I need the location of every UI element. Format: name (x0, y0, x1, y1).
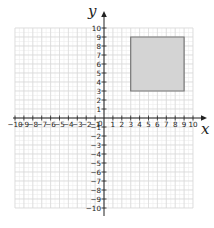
x-tick-label: 2 (120, 120, 125, 129)
y-tick-label: 8 (96, 42, 101, 51)
y-tick-label: 2 (96, 96, 101, 105)
origin-label: 0 (98, 119, 103, 128)
x-tick-label: 10 (188, 120, 198, 129)
x-tick-label: 6 (155, 120, 160, 129)
y-tick-label: −6 (90, 168, 101, 177)
y-tick-label: −4 (90, 150, 101, 159)
y-tick-label: 7 (96, 51, 101, 60)
y-tick-label: 10 (92, 24, 102, 33)
y-tick-label: −5 (90, 159, 101, 168)
shapes-layer (131, 37, 184, 91)
x-tick-label: 4 (137, 120, 142, 129)
y-tick-label: 4 (96, 78, 101, 87)
rectangle-shape (131, 37, 184, 91)
y-tick-label: −9 (90, 195, 101, 204)
y-tick-label: −3 (90, 141, 101, 150)
x-axis-label: x (201, 120, 210, 138)
x-tick-label: 5 (146, 120, 151, 129)
x-tick-label: 3 (128, 120, 133, 129)
coordinate-plane: −10−9−8−7−6−5−4−3−2−11234567891010987654… (0, 0, 214, 228)
y-tick-label: 1 (96, 105, 101, 114)
y-tick-label: 9 (96, 33, 101, 42)
x-tick-label: 1 (111, 120, 116, 129)
x-tick-label: 8 (173, 120, 178, 129)
y-tick-label: −8 (90, 186, 101, 195)
y-tick-label: −2 (90, 132, 101, 141)
y-tick-label: 6 (96, 60, 101, 69)
y-axis-label: y (87, 2, 97, 20)
x-tick-label: 7 (164, 120, 169, 129)
y-tick-label: 5 (96, 69, 101, 78)
y-tick-label: −10 (86, 204, 102, 213)
y-tick-label: 3 (96, 87, 101, 96)
y-tick-label: −7 (90, 177, 101, 186)
x-tick-label: 9 (182, 120, 187, 129)
y-axis-arrow-icon (101, 11, 107, 17)
